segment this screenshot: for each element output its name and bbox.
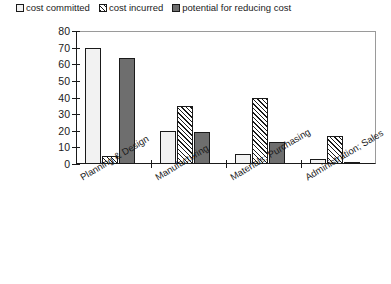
y-axis-tick-label: 60 (58, 58, 70, 70)
legend-item-cost-incurred: cost incurred (99, 3, 163, 13)
y-axis-tick-label: 20 (58, 125, 70, 137)
legend-label: cost committed (26, 3, 90, 13)
y-axis-tick-label: 50 (58, 75, 70, 87)
legend-item-cost-committed: cost committed (16, 3, 90, 13)
dark-square-icon (172, 4, 180, 12)
x-axis-tick (301, 160, 302, 168)
y-axis-tick (72, 114, 80, 115)
y-axis-tick-label: 40 (58, 92, 70, 104)
x-axis-tick (151, 160, 152, 168)
y-axis-tick-label: 0 (64, 158, 70, 170)
y-axis-tick (72, 131, 80, 132)
y-axis-tick (72, 31, 80, 32)
y-axis-tick-label: 10 (58, 141, 70, 153)
y-axis-tick (72, 147, 80, 148)
chart-legend: cost committed cost incurred potential f… (16, 3, 291, 13)
y-axis-tick (72, 48, 80, 49)
diagonal-square-icon (99, 4, 107, 12)
plot-area: 80706050403020100 (76, 31, 376, 164)
legend-label: potential for reducing cost (182, 3, 291, 13)
y-axis-tick (72, 98, 80, 99)
bar (85, 48, 101, 164)
legend-label: cost incurred (109, 3, 163, 13)
bar (160, 131, 176, 164)
bar (344, 162, 360, 164)
y-axis-tick-label: 70 (58, 42, 70, 54)
y-axis-tick (72, 164, 80, 165)
legend-item-potential-for-reducing-cost: potential for reducing cost (172, 3, 291, 13)
y-axis-tick (72, 64, 80, 65)
y-axis-tick (72, 81, 80, 82)
y-axis-tick-label: 30 (58, 108, 70, 120)
chart-figure: cost committed cost incurred potential f… (0, 0, 391, 284)
dots-square-icon (16, 4, 24, 12)
y-axis-tick-label: 80 (58, 25, 70, 37)
x-axis-tick (226, 160, 227, 168)
